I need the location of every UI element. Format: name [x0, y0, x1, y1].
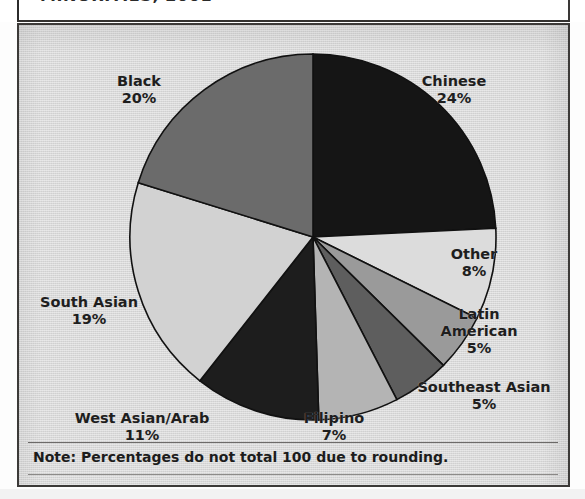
pie-label-southeast-asian-name: Southeast Asian [417, 379, 550, 395]
pie-label-other-value: 8% [419, 263, 529, 280]
page-bottom-edge [0, 489, 585, 499]
pie-label-black-name: Black [117, 73, 161, 89]
pie-label-latin-american: Latin American 5% [419, 306, 539, 357]
pie-label-chinese-value: 24% [389, 90, 519, 107]
chart-panel: Black 20% Chinese 24% Other 8% Latin Ame… [17, 23, 570, 487]
pie-label-south-asian-name: South Asian [40, 294, 138, 310]
pie-label-latin-american-value: 5% [419, 340, 539, 357]
header-border-left [17, 0, 19, 22]
pie-label-southeast-asian: Southeast Asian 5% [409, 379, 559, 413]
pie-label-other: Other 8% [419, 246, 529, 280]
pie-label-south-asian: South Asian 19% [17, 294, 164, 328]
note-divider-top [28, 442, 558, 443]
header-border-bottom [17, 20, 570, 22]
chart-note: Note: Percentages do not total 100 due t… [33, 449, 448, 465]
pie-label-other-name: Other [451, 246, 498, 262]
pie-label-latin-american-name: Latin [458, 306, 499, 322]
pie-slice-group [130, 54, 496, 420]
pie-label-west-asian-arab-name: West Asian/Arab [75, 410, 210, 426]
page-header-band: MINORITIES, 2001 [0, 0, 585, 22]
page-title: MINORITIES, 2001 [40, 0, 212, 5]
pie-label-latin-american-name2: American [419, 323, 539, 340]
pie-label-filipino-name: Filipino [304, 410, 364, 426]
pie-label-filipino: Filipino 7% [274, 410, 394, 444]
pie-label-chinese-name: Chinese [422, 73, 487, 89]
pie-label-black-value: 20% [79, 90, 199, 107]
pie-label-southeast-asian-value: 5% [409, 396, 559, 413]
scanned-chart-page: MINORITIES, 2001 Black 20% Chinese 24% O… [0, 0, 585, 499]
chart-panel-inner: Black 20% Chinese 24% Other 8% Latin Ame… [19, 25, 568, 485]
header-border-right [568, 0, 570, 21]
pie-label-south-asian-value: 19% [17, 311, 164, 328]
note-divider-bottom [28, 474, 558, 475]
pie-label-west-asian-arab: West Asian/Arab 11% [57, 410, 227, 444]
pie-label-chinese: Chinese 24% [389, 73, 519, 107]
pie-label-black: Black 20% [79, 73, 199, 107]
